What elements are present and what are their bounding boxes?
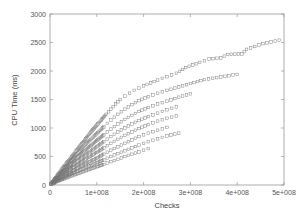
y-tick-label: 3000 bbox=[30, 11, 46, 18]
y-tick-label: 500 bbox=[34, 153, 46, 160]
y-tick-label: 2500 bbox=[30, 39, 46, 46]
x-axis-label: Checks bbox=[154, 201, 179, 210]
x-tick-label: 0 bbox=[48, 189, 52, 196]
y-tick-label: 1000 bbox=[30, 125, 46, 132]
x-tick-label: 1e+008 bbox=[85, 189, 109, 196]
y-tick-label: 0 bbox=[42, 182, 46, 189]
x-tick-label: 2e+008 bbox=[132, 189, 156, 196]
y-axis-label: CPU Time (ms) bbox=[10, 74, 19, 126]
y-tick-label: 1500 bbox=[30, 96, 46, 103]
scatter-chart: 01e+0082e+0083e+0084e+0085e+008 05001000… bbox=[0, 0, 306, 216]
x-tick-label: 3e+008 bbox=[179, 189, 203, 196]
x-tick-label: 5e+008 bbox=[272, 189, 296, 196]
plot-area bbox=[50, 14, 284, 185]
y-tick-label: 2000 bbox=[30, 68, 46, 75]
x-tick-label: 4e+008 bbox=[225, 189, 249, 196]
